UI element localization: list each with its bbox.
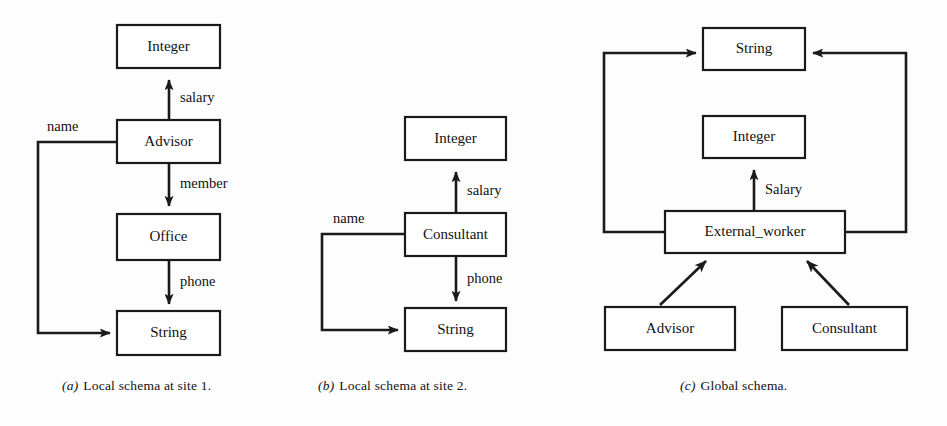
edge-c-string-left-line [604, 53, 696, 232]
caption-text-c: Global schema. [696, 378, 788, 393]
caption-panel-c: (c)Global schema. [680, 378, 787, 394]
caption-tag-c: (c) [680, 378, 696, 393]
panel-b: Integer Consultant String salary phone n… [322, 117, 506, 351]
caption-panel-b: (b)Local schema at site 2. [318, 378, 467, 394]
caption-panel-a: (a)Local schema at site 1. [62, 378, 211, 394]
edge-label-b-salary: salary [467, 182, 502, 198]
caption-text-b: Local schema at site 2. [334, 378, 467, 393]
edge-a-name-line [38, 142, 118, 333]
entity-label-c-advisor: Advisor [646, 320, 694, 336]
entity-label-b-integer: Integer [434, 130, 476, 146]
entity-label-c-integer: Integer [733, 128, 775, 144]
entity-label-b-string: String [437, 321, 474, 337]
edge-label-a-phone: phone [180, 273, 215, 289]
caption-tag-a: (a) [62, 378, 78, 393]
edge-label-a-salary: salary [180, 89, 215, 105]
diagram-canvas: Integer Advisor Office String salary mem… [0, 0, 947, 426]
entity-label-a-string: String [150, 324, 187, 340]
edge-c-string-right-line [813, 53, 906, 232]
edge-c-advisor-isa-line [660, 261, 706, 305]
edge-label-b-phone: phone [467, 270, 502, 286]
entity-label-a-office: Office [149, 228, 187, 244]
panel-c: String Integer External_worker Advisor C… [604, 28, 907, 350]
edge-c-consultant-isa-line [807, 261, 849, 305]
edge-b-name-line [322, 234, 405, 330]
entity-label-c-consultant: Consultant [812, 320, 878, 336]
entity-label-a-advisor: Advisor [144, 133, 192, 149]
panel-a: Integer Advisor Office String salary mem… [38, 25, 228, 355]
edge-label-c-salary: Salary [765, 181, 803, 197]
edge-label-b-name: name [333, 210, 364, 226]
entity-label-b-consultant: Consultant [423, 226, 489, 242]
entity-label-a-integer: Integer [147, 38, 189, 54]
entity-label-c-string: String [736, 40, 773, 56]
edge-label-a-name: name [47, 118, 78, 134]
schema-integration-figure: Integer Advisor Office String salary mem… [0, 0, 947, 426]
edge-label-a-member: member [180, 175, 228, 191]
entity-label-c-external-worker: External_worker [705, 223, 806, 239]
caption-text-a: Local schema at site 1. [78, 378, 211, 393]
caption-tag-b: (b) [318, 378, 334, 393]
